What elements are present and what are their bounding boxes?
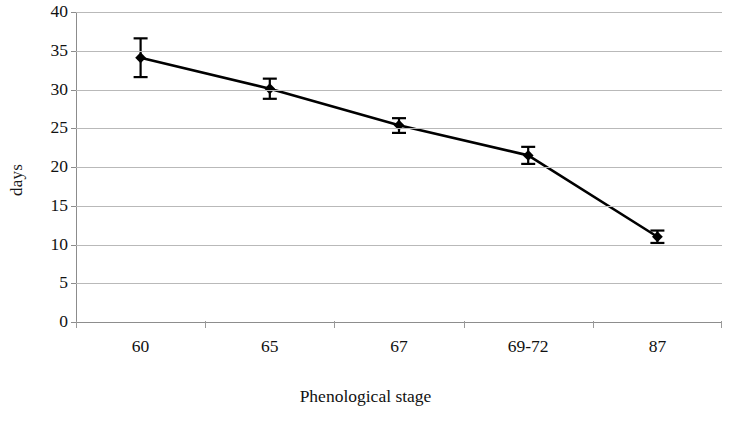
gridline-y-40 [76,12,722,13]
x-tick-mark-1 [205,321,206,328]
y-tick-mark-10 [71,245,76,246]
y-tick-label-25: 25 [28,120,68,138]
y-tick-label-20: 20 [28,158,68,176]
gridline-y-0 [76,322,722,323]
y-tick-label-0: 0 [28,313,68,331]
y-tick-label-30: 30 [28,81,68,99]
x-tick-mark-2 [334,321,335,328]
gridline-y-5 [76,283,722,284]
series-line [141,58,658,237]
x-tick-label-87: 87 [587,336,727,357]
y-tick-label-35: 35 [28,42,68,60]
y-tick-mark-30 [71,90,76,91]
x-tick-mark-0 [76,321,77,328]
x-tick-label-67: 67 [329,336,469,357]
x-tick-mark-4 [593,321,594,328]
gridline-y-25 [76,128,722,129]
y-axis-title-text: days [7,164,27,196]
y-tick-mark-35 [71,51,76,52]
data-point-60 [135,52,146,63]
x-axis-title: Phenological stage [0,386,731,407]
x-tick-mark-3 [464,321,465,328]
y-tick-label-15: 15 [28,197,68,215]
x-tick-label-69-72: 69-72 [458,336,598,357]
y-tick-mark-25 [71,128,76,129]
x-tick-mark-5 [721,321,722,328]
gridline-y-20 [76,167,722,168]
y-axis-tick-labels: 0510152025303540 [26,0,68,422]
y-tick-mark-40 [71,12,76,13]
gridline-y-15 [76,206,722,207]
y-tick-label-10: 10 [28,236,68,254]
y-tick-mark-20 [71,167,76,168]
y-tick-mark-15 [71,206,76,207]
x-axis-tick-labels: 60656769-7287 [76,336,722,362]
y-tick-label-5: 5 [28,275,68,293]
x-tick-label-65: 65 [200,336,340,357]
gridline-y-35 [76,51,722,52]
plot-area [76,12,722,322]
y-tick-label-40: 40 [28,3,68,21]
gridline-y-10 [76,245,722,246]
line-chart: days 0510152025303540 60656769-7287 Phen… [0,0,731,422]
gridline-y-30 [76,90,722,91]
x-tick-label-60: 60 [71,336,211,357]
x-axis-title-text: Phenological stage [300,386,432,406]
y-tick-mark-5 [71,283,76,284]
